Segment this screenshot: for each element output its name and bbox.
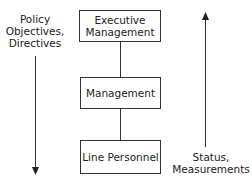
node-executive-label-line1: Executive — [85, 14, 154, 27]
node-executive-label-line2: Management — [85, 26, 154, 39]
policy-label-line2: Objectives, — [4, 25, 66, 37]
status-label: Status, Measurements — [172, 151, 250, 175]
policy-down-arrow — [32, 56, 39, 175]
node-executive-management: Executive Management — [79, 10, 161, 42]
policy-label: Policy Objectives, Directives — [4, 13, 66, 49]
node-management: Management — [80, 77, 161, 109]
node-line-personnel: Line Personnel — [80, 140, 161, 174]
status-label-line1: Status, — [172, 151, 250, 163]
status-up-arrow — [202, 12, 209, 147]
hierarchy-diagram: Policy Objectives, Directives Executive … — [0, 0, 252, 187]
status-label-line2: Measurements — [172, 163, 250, 175]
node-management-label: Management — [86, 87, 155, 100]
node-line-personnel-label: Line Personnel — [82, 151, 159, 164]
policy-label-line3: Directives — [4, 37, 66, 49]
arrowhead-up-icon — [202, 12, 209, 20]
arrowhead-down-icon — [32, 167, 39, 175]
policy-label-line1: Policy — [4, 13, 66, 25]
